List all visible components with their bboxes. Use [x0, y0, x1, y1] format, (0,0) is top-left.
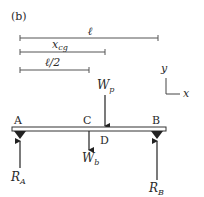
support-b-icon	[151, 131, 163, 139]
coordinate-axes: y x	[160, 62, 190, 100]
diagram-canvas: (b) ℓ xcg ℓ/2 y x Wp A C B D	[0, 0, 204, 197]
force-ra: RA	[10, 141, 26, 186]
support-a-icon	[14, 131, 26, 139]
force-wb: Wb	[82, 131, 99, 167]
rb-label: RB	[148, 181, 164, 197]
force-rb: RB	[148, 141, 164, 197]
length-label: ℓ	[88, 25, 93, 38]
wb-label: Wb	[82, 151, 99, 167]
dimension-length: ℓ	[20, 25, 158, 41]
beam	[12, 127, 166, 131]
point-c-label: C	[83, 114, 91, 127]
x-axis-label: x	[183, 87, 190, 100]
ra-label: RA	[10, 170, 26, 186]
beam-free-body-diagram: (b) ℓ xcg ℓ/2 y x Wp A C B D	[0, 0, 204, 197]
panel-label: (b)	[11, 10, 27, 23]
point-b-label: B	[152, 114, 160, 127]
dimension-xcg: xcg	[20, 38, 105, 55]
wp-label: Wp	[97, 78, 114, 94]
dimension-half-length: ℓ/2	[20, 56, 89, 73]
y-axis-label: y	[160, 62, 168, 75]
point-a-label: A	[13, 114, 23, 127]
half-length-label: ℓ/2	[45, 56, 60, 69]
xcg-label: xcg	[52, 38, 68, 52]
force-wp: Wp	[97, 78, 114, 126]
point-d-label: D	[100, 134, 109, 147]
